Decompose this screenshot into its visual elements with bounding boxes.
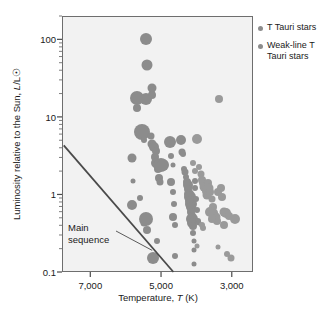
data-point — [170, 162, 175, 167]
main-sequence-annotation: Main sequence — [68, 222, 109, 246]
data-point — [154, 238, 160, 244]
legend-item-weak-line-t-tauri-stars: Weak-line T Tauri stars — [258, 40, 336, 62]
data-point — [167, 178, 175, 186]
data-point — [208, 215, 216, 223]
data-point — [200, 225, 206, 231]
legend-marker-icon — [258, 44, 263, 49]
data-point — [227, 255, 234, 262]
data-point — [215, 95, 223, 103]
data-point — [171, 201, 177, 207]
y-axis-tick-label: 100 — [18, 34, 56, 45]
main-sequence-annotation-line2: sequence — [68, 234, 109, 246]
data-point — [147, 252, 159, 264]
chart-legend: T Tauri stars Weak-line T Tauri stars — [258, 22, 336, 69]
data-point — [208, 195, 215, 202]
data-point — [194, 207, 200, 213]
data-point — [140, 33, 152, 45]
y-axis-title: Luminosity relative to the Sun, L/L☉ — [11, 68, 22, 220]
data-point — [191, 238, 196, 243]
legend-label: T Tauri stars — [267, 22, 316, 33]
data-point — [128, 154, 137, 163]
legend-item-t-tauri-stars: T Tauri stars — [258, 22, 336, 33]
data-point — [157, 159, 169, 171]
legend-marker-icon — [258, 26, 263, 31]
data-point — [215, 245, 220, 250]
x-axis-tick-label: 7,000 — [78, 280, 102, 291]
scatter-chart-figure: 0.1110100 7,0005,0003,000 Temperature, T… — [0, 0, 336, 318]
data-point — [170, 189, 176, 195]
y-axis-tick-label: 0.1 — [18, 267, 56, 278]
x-axis-tick-label: 5,000 — [149, 280, 173, 291]
data-point — [127, 200, 137, 210]
data-point — [195, 244, 200, 249]
data-point — [143, 226, 151, 234]
x-axis-title: Temperature, T (K) — [118, 292, 198, 303]
data-point — [220, 221, 228, 229]
data-point — [141, 137, 147, 143]
legend-label: Weak-line T Tauri stars — [267, 40, 336, 62]
data-point — [130, 178, 135, 183]
data-point — [217, 184, 225, 192]
data-point — [176, 135, 186, 145]
data-point — [148, 91, 156, 99]
data-point — [172, 253, 178, 259]
main-sequence-annotation-line1: Main — [68, 222, 109, 234]
data-point — [133, 104, 141, 112]
data-point — [137, 195, 143, 201]
data-point — [230, 214, 240, 224]
data-point — [190, 160, 196, 166]
data-point — [180, 151, 186, 157]
y-axis-tick-label: 1 — [18, 189, 56, 200]
data-point — [164, 136, 176, 148]
y-axis-tick-label: 10 — [18, 111, 56, 122]
data-point — [192, 178, 198, 184]
data-point — [139, 212, 153, 226]
data-point — [192, 134, 202, 144]
data-point — [218, 193, 226, 201]
data-point — [193, 196, 199, 202]
data-point — [172, 222, 178, 228]
data-point — [141, 60, 152, 71]
data-point — [190, 230, 196, 236]
data-point — [168, 153, 174, 159]
data-point — [192, 262, 197, 267]
data-point — [156, 178, 163, 185]
data-point — [192, 185, 198, 191]
data-point — [169, 213, 177, 221]
data-point — [192, 168, 198, 174]
x-axis-tick-label: 3,000 — [220, 280, 244, 291]
